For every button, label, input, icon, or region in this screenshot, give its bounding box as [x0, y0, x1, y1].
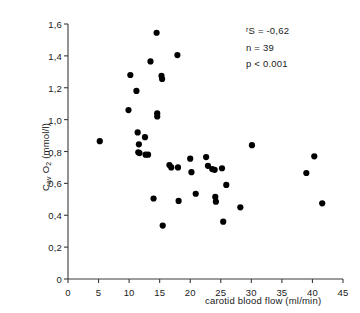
- data-point: [223, 182, 229, 188]
- data-point: [249, 142, 255, 148]
- x-tick-label: 0: [65, 287, 70, 298]
- correlation-value: = -0,62: [255, 25, 289, 36]
- y-axis-ticks: [64, 24, 68, 279]
- data-point: [136, 150, 142, 156]
- data-point: [188, 169, 194, 175]
- x-tick-label: 15: [154, 287, 165, 298]
- data-point: [303, 170, 309, 176]
- x-tick-label: 5: [96, 287, 101, 298]
- data-point: [176, 198, 182, 204]
- data-point: [147, 58, 153, 64]
- data-point: [125, 107, 131, 113]
- data-point: [220, 219, 226, 225]
- p-value-stat: p < 0.001: [246, 56, 289, 73]
- data-point: [154, 113, 160, 119]
- data-point: [159, 76, 165, 82]
- data-point: [212, 167, 218, 173]
- data-point: [213, 199, 219, 205]
- y-tick-label: 0,2: [24, 242, 62, 253]
- x-tick-label: 30: [246, 287, 257, 298]
- data-point: [319, 200, 325, 206]
- data-point: [219, 165, 225, 171]
- data-point: [311, 153, 317, 159]
- y-tick-label: 1,4: [24, 50, 62, 61]
- x-tick-label: 35: [276, 287, 287, 298]
- x-tick-label: 45: [338, 287, 349, 298]
- y-tick-label: 0,4: [24, 210, 62, 221]
- data-point: [150, 195, 156, 201]
- y-tick-label: 1,6: [24, 19, 62, 30]
- data-point: [160, 223, 166, 229]
- data-point: [133, 88, 139, 94]
- x-axis-ticks: [68, 279, 343, 283]
- data-point: [145, 152, 151, 158]
- data-point: [136, 141, 142, 147]
- y-tick-label: 1,0: [24, 114, 62, 125]
- data-point: [135, 129, 141, 135]
- data-point: [142, 134, 148, 140]
- y-tick-label: 0,6: [24, 178, 62, 189]
- data-point: [168, 164, 174, 170]
- x-tick-label: 20: [185, 287, 196, 298]
- sample-size-stat: n = 39: [246, 40, 289, 57]
- data-point: [127, 72, 133, 78]
- data-point: [174, 52, 180, 58]
- data-point: [203, 154, 209, 160]
- data-point: [175, 164, 181, 170]
- data-point: [154, 30, 160, 36]
- y-tick-label: 0,8: [24, 146, 62, 157]
- data-point: [187, 156, 193, 162]
- data-point: [237, 204, 243, 210]
- data-point: [193, 191, 199, 197]
- scatter-plot-figure: Cav O2 (mmol/l) carotid blood flow (ml/m…: [0, 0, 360, 313]
- correlation-stat: rS = -0,62: [246, 22, 289, 40]
- axes-lines: [68, 24, 343, 279]
- y-tick-label: 1,2: [24, 82, 62, 93]
- data-points-group: [97, 30, 326, 229]
- x-tick-label: 25: [215, 287, 226, 298]
- data-point: [97, 138, 103, 144]
- y-tick-label: 0: [24, 274, 62, 285]
- statistics-annotation: rS = -0,62 n = 39 p < 0.001: [246, 22, 289, 73]
- x-tick-label: 10: [124, 287, 135, 298]
- x-tick-label: 40: [307, 287, 318, 298]
